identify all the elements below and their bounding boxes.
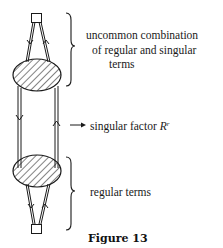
singular-factor-text: singular factor [90,120,157,132]
bottom-vertex-square [32,225,42,234]
regular-terms-label: regular terms [90,186,151,199]
top-hatched-blob [13,59,61,91]
top-brace [66,13,75,86]
right-arrow-icon [81,123,86,128]
arrow-down-icon [28,204,34,208]
bottom-brace [66,157,75,230]
singular-factor-superscript: r [167,120,170,128]
figure-caption: Figure 13 [88,232,148,245]
top-bracket-label-line3: terms [109,58,135,71]
singular-factor-label: singular factor Rr [90,118,169,133]
top-bracket-label-line2: of regular and singular [92,44,196,57]
top-vertex-square [32,14,42,23]
arrow-down-icon [16,115,23,120]
bottom-hatched-blob [13,155,61,187]
top-bracket-label-line1: uncommon combination [86,29,198,42]
singular-factor-symbol: R [160,120,167,132]
arrow-up-icon [53,121,60,126]
